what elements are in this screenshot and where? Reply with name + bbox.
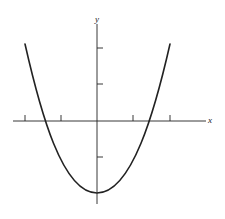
y-ticks: [97, 48, 103, 157]
parabola-chart: [0, 0, 225, 219]
parabola-curve: [25, 44, 170, 193]
y-axis-label: y: [95, 15, 99, 24]
x-ticks: [25, 115, 170, 121]
x-axis-label: x: [208, 116, 212, 125]
